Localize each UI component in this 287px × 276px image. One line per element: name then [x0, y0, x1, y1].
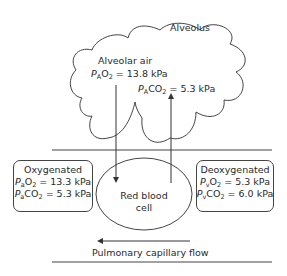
- rbc-label-line1: Red blood: [104, 190, 184, 202]
- alveolar-air-label: Alveolar air: [98, 55, 152, 67]
- flow-label: Pulmonary capillary flow: [92, 247, 209, 259]
- rbc-label-line2: cell: [104, 202, 184, 214]
- arterial-pco2: PaCO2 = 5.3 kPa: [13, 188, 93, 200]
- venous-pco2: PvCO2 = 6.0 kPa: [196, 188, 274, 200]
- diagram-canvas: [0, 0, 287, 276]
- venous-po2: PvO2 = 5.3 kPa: [196, 176, 274, 188]
- alveolar-po2: PAO2 = 13.8 kPa: [91, 68, 168, 80]
- alveolus-label: Alveolus: [170, 22, 210, 34]
- deoxygenated-title: Deoxygenated: [196, 164, 274, 176]
- oxygenated-title: Oxygenated: [13, 164, 93, 176]
- alveolar-pco2: PACO2 = 5.3 kPa: [138, 83, 215, 95]
- arterial-po2: PaO2 = 13.3 kPa: [13, 176, 93, 188]
